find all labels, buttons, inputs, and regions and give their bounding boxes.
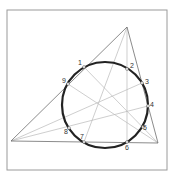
- cevian-line: [84, 27, 127, 142]
- nine-point-circle-diagram: 123456789: [0, 0, 174, 178]
- diagram-frame: [7, 10, 167, 170]
- point-marker: [147, 105, 150, 108]
- point-marker: [126, 68, 129, 71]
- point-label: 2: [130, 62, 134, 69]
- point-marker: [83, 141, 86, 144]
- point-label: 5: [143, 124, 147, 131]
- point-marker: [126, 141, 129, 144]
- point-label: 4: [150, 101, 154, 108]
- triangle: [11, 27, 158, 143]
- point-marker: [67, 83, 70, 86]
- point-marker: [68, 127, 71, 130]
- point-marker: [141, 82, 144, 85]
- point-label: 1: [78, 59, 82, 66]
- point-label: 3: [145, 78, 149, 85]
- diagram-stage: 123456789: [0, 0, 174, 178]
- point-label: 6: [125, 144, 129, 151]
- nine-point-circle: [62, 62, 148, 148]
- point-label: 7: [80, 133, 84, 140]
- point-label: 8: [64, 128, 68, 135]
- cevian-line: [11, 83, 142, 141]
- point-label: 9: [62, 77, 66, 84]
- point-marker: [83, 66, 86, 69]
- cevian-lines: [11, 27, 158, 143]
